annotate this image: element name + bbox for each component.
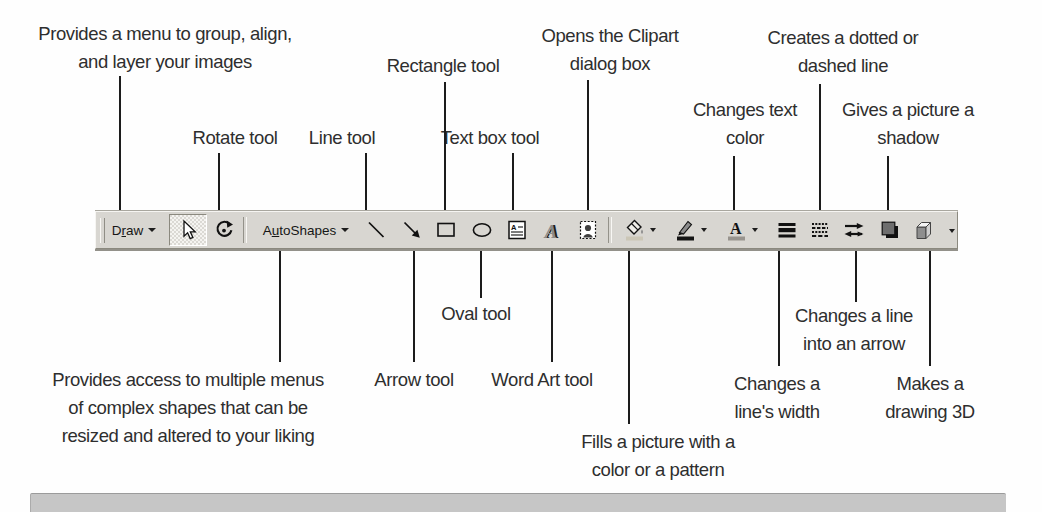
line-icon — [365, 219, 387, 241]
leader-make-3d — [929, 249, 931, 366]
leader-shadow — [887, 156, 889, 211]
svg-text:A: A — [544, 221, 558, 242]
callout-text-color: Changes text color — [693, 96, 797, 152]
clip-art-button[interactable] — [573, 214, 603, 246]
callout-rectangle-tool: Rectangle tool — [387, 52, 500, 80]
callout-arrow-tool: Arrow tool — [374, 366, 453, 394]
draw-menu-button[interactable]: Draw — [106, 214, 162, 246]
arrow-icon — [401, 219, 423, 241]
leader-text-color — [733, 156, 735, 211]
more-buttons-button[interactable] — [946, 222, 958, 240]
leader-arrow-style — [855, 249, 857, 302]
chevron-down-icon — [949, 229, 955, 233]
leader-autoshapes — [279, 249, 281, 362]
page-section-bar — [30, 493, 1006, 512]
text-box-icon: A — [506, 219, 528, 241]
select-cursor-icon — [177, 219, 199, 241]
chevron-down-icon — [148, 228, 156, 232]
fill-color-bucket-icon — [623, 218, 647, 242]
chevron-down-icon — [341, 228, 349, 232]
leader-rotate — [218, 153, 220, 211]
text-box-tool-button[interactable]: A — [502, 214, 532, 246]
font-color-button[interactable]: A — [718, 214, 764, 246]
leader-clipart — [587, 80, 589, 211]
line-style-button[interactable] — [772, 214, 802, 246]
line-tool-button[interactable] — [361, 214, 391, 246]
fill-color-button[interactable] — [616, 214, 662, 246]
leader-rectangle — [444, 82, 446, 211]
drawing-toolbar: Draw AutoShapes — [95, 211, 958, 249]
line-style-icon — [776, 219, 798, 241]
leader-text-box — [512, 153, 514, 211]
leader-line-width — [778, 249, 780, 366]
callout-arrow-style: Changes a line into an arrow — [795, 302, 913, 358]
line-color-button[interactable] — [667, 214, 713, 246]
arrow-tool-button[interactable] — [397, 214, 427, 246]
leader-dash-style — [819, 84, 821, 211]
callout-make-3d: Makes a drawing 3D — [885, 370, 975, 426]
callout-draw-menu: Provides a menu to group, align, and lay… — [38, 20, 292, 76]
word-art-icon: A A — [540, 219, 564, 241]
leader-fill-color — [628, 249, 630, 424]
toolbar-separator — [243, 217, 247, 243]
line-color-brush-icon — [674, 218, 698, 242]
svg-text:A: A — [730, 220, 742, 237]
callout-autoshapes: Provides access to multiple menus of com… — [52, 366, 324, 450]
autoshapes-menu-button[interactable]: AutoShapes — [251, 214, 361, 246]
word-art-tool-button[interactable]: A A — [536, 214, 568, 246]
callout-oval-tool: Oval tool — [441, 300, 510, 328]
leader-oval-tool — [480, 249, 482, 298]
callout-fill-color: Fills a picture with a color or a patter… — [581, 428, 735, 484]
arrow-style-icon — [842, 219, 866, 241]
leader-line-tool — [365, 153, 367, 211]
rectangle-icon — [435, 219, 457, 241]
rotate-icon — [213, 219, 235, 241]
callout-line-width: Changes a line's width — [734, 370, 820, 426]
chevron-down-icon[interactable] — [701, 228, 707, 232]
leader-draw-menu — [119, 76, 121, 211]
toolbar-separator — [608, 217, 612, 243]
callout-word-art-tool: Word Art tool — [491, 366, 592, 394]
toolbar-drag-handle[interactable] — [100, 218, 105, 243]
font-color-icon: A — [725, 218, 749, 242]
figure-drawing-toolbar-annotated: Provides a menu to group, align, and lay… — [0, 0, 1042, 512]
dash-style-icon — [809, 219, 831, 241]
callout-rotate-tool: Rotate tool — [192, 124, 277, 152]
callout-shadow: Gives a picture a shadow — [842, 96, 974, 152]
arrow-style-button[interactable] — [838, 214, 870, 246]
three-d-cube-icon — [913, 219, 937, 241]
dash-style-button[interactable] — [805, 214, 835, 246]
rectangle-tool-button[interactable] — [431, 214, 461, 246]
draw-menu-label: Draw — [112, 223, 144, 238]
oval-icon — [471, 219, 493, 241]
chevron-down-icon[interactable] — [752, 228, 758, 232]
three-d-button[interactable] — [908, 214, 941, 246]
shadow-icon — [879, 219, 901, 241]
chevron-down-icon[interactable] — [650, 228, 656, 232]
oval-tool-button[interactable] — [467, 214, 497, 246]
callout-line-tool: Line tool — [309, 124, 375, 152]
callout-clipart: Opens the Clipart dialog box — [541, 22, 678, 78]
autoshapes-label: AutoShapes — [263, 223, 337, 238]
free-rotate-button[interactable] — [209, 214, 239, 246]
callout-text-box-tool: Text box tool — [441, 124, 540, 152]
leader-word-art — [551, 249, 553, 362]
select-objects-button[interactable] — [169, 214, 207, 246]
shadow-button[interactable] — [875, 214, 905, 246]
svg-text:A: A — [511, 223, 517, 232]
clip-art-icon — [577, 219, 599, 241]
callout-dash-style: Creates a dotted or dashed line — [768, 24, 919, 80]
leader-arrow-tool — [413, 249, 415, 362]
